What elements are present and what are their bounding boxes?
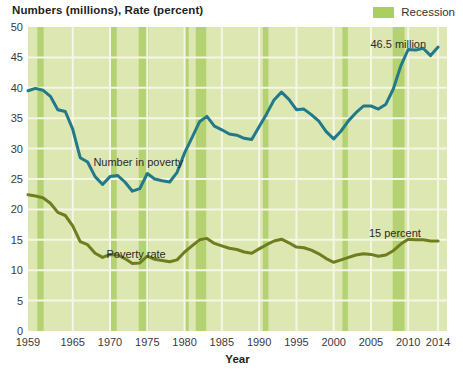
y-tick-label: 25 [11, 173, 23, 185]
chart-canvas: Number in povertyPoverty rate46.5 millio… [0, 0, 463, 377]
x-tick-label: 2005 [359, 336, 383, 348]
x-tick-label: 1985 [210, 336, 234, 348]
annotation-label: 15 percent [369, 227, 421, 239]
x-tick-label: 1975 [135, 336, 159, 348]
x-tick-label: 1959 [16, 336, 40, 348]
y-tick-label: 45 [11, 51, 23, 63]
y-tick-label: 20 [11, 203, 23, 215]
x-tick-label: 1995 [284, 336, 308, 348]
x-tick-label: 2014 [426, 336, 450, 348]
y-tick-label: 5 [17, 295, 23, 307]
y-tick-label: 40 [11, 82, 23, 94]
y-tick-label: 10 [11, 264, 23, 276]
y-tick-label: 30 [11, 143, 23, 155]
x-tick-label: 1990 [247, 336, 271, 348]
x-tick-label: 1970 [98, 336, 122, 348]
annotation-label: 46.5 million [370, 38, 426, 50]
x-tick-label: 1980 [172, 336, 196, 348]
y-tick-label: 50 [11, 21, 23, 33]
annotation-label: Number in poverty [93, 156, 183, 168]
x-axis-title: Year [225, 353, 250, 365]
y-tick-label: 15 [11, 234, 23, 246]
annotation-label: Poverty rate [106, 248, 165, 260]
y-tick-label: 35 [11, 112, 23, 124]
x-tick-label: 2010 [396, 336, 420, 348]
poverty-chart-figure: Numbers (millions), Rate (percent) Reces… [0, 0, 463, 377]
x-tick-label: 1965 [60, 336, 84, 348]
x-tick-label: 2000 [321, 336, 345, 348]
